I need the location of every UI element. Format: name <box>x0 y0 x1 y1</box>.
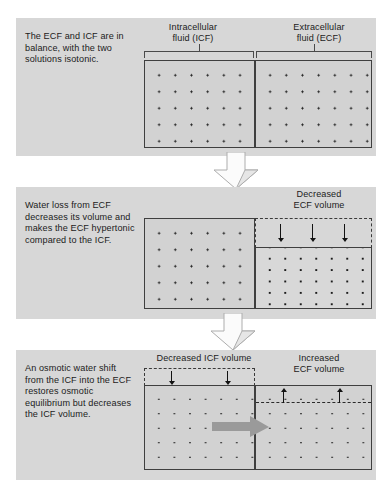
icf-solute-dots <box>145 219 254 308</box>
ecf-compartment-box-shrunken <box>255 247 372 309</box>
osmosis-fluid-shift-diagram: The ECF and ICF are in balance, with the… <box>0 0 392 486</box>
panel-2-caption: Water loss from ECF decreases its volume… <box>25 200 137 246</box>
bracket-icf-tick <box>199 44 200 52</box>
osmotic-water-shift-arrow <box>212 416 270 438</box>
water-loss-arrow <box>277 224 284 244</box>
icf-volume-decrease-arrow <box>224 371 231 387</box>
icf-volume-decrease-arrow <box>168 371 175 387</box>
water-loss-arrow <box>309 224 316 244</box>
ecf-volume-increase-arrow <box>336 388 343 404</box>
panel-1-caption: The ECF and ICF are in balance, with the… <box>25 31 137 66</box>
ecf-solute-dots <box>256 386 371 469</box>
water-loss-arrow <box>341 224 348 244</box>
bracket-icf <box>144 51 254 58</box>
label-intracellular-fluid: Intracellular fluid (ICF) <box>138 22 248 45</box>
bracket-ecf <box>256 51 372 58</box>
bracket-ecf-tick <box>314 44 315 52</box>
panel-osmotic-equilibrium: An osmotic water shift from the ICF into… <box>16 350 376 480</box>
icf-solute-dots <box>145 61 254 147</box>
label-increased-ecf-volume: Increased ECF volume <box>266 353 372 376</box>
ecf-solute-dots-concentrated <box>256 248 371 308</box>
icf-compartment-box <box>144 218 255 309</box>
ecf-volume-increase-arrow <box>280 388 287 404</box>
ecf-solute-dots <box>256 61 371 147</box>
label-decreased-icf-volume: Decreased ICF volume <box>142 353 266 364</box>
flow-arrow-panel2-to-panel3 <box>209 313 257 351</box>
ecf-compartment-box-expanded <box>255 385 372 470</box>
panel-isotonic: The ECF and ICF are in balance, with the… <box>16 18 376 156</box>
icf-compartment-box <box>144 60 255 148</box>
panel-ecf-water-loss: Water loss from ECF decreases its volume… <box>16 187 376 319</box>
ecf-compartment-box <box>255 60 372 148</box>
icf-original-volume-outline <box>144 368 255 386</box>
label-decreased-ecf-volume: Decreased ECF volume <box>266 189 372 212</box>
panel-3-caption: An osmotic water shift from the ICF into… <box>25 363 137 421</box>
label-extracellular-fluid: Extracellular fluid (ECF) <box>265 22 373 45</box>
ecf-previous-level-line <box>256 402 371 403</box>
flow-arrow-panel1-to-panel2 <box>212 152 260 190</box>
